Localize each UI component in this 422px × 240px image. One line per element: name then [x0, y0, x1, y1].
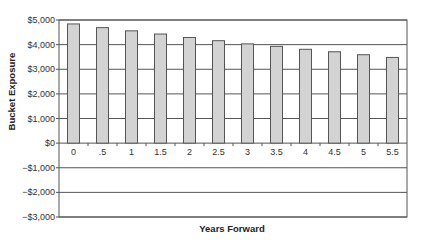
- bar: [300, 49, 312, 143]
- y-tick-label: $0: [45, 138, 55, 148]
- bar: [358, 55, 370, 143]
- bar: [213, 41, 225, 143]
- x-tick-label: 5: [361, 147, 366, 157]
- bars: [68, 24, 399, 143]
- bar: [242, 44, 254, 143]
- bar: [68, 24, 80, 143]
- y-tick-label: −$2,000: [22, 187, 55, 197]
- x-tick-label: 2.5: [212, 147, 225, 157]
- x-tick-label: 1.5: [154, 147, 167, 157]
- x-axis-tick-labels: 0.511.522.533.544.555.5: [71, 147, 399, 157]
- bar: [271, 46, 283, 143]
- bar-chart: $5,000$4,000$3,000$2,000$1,000$0−$1,000−…: [0, 0, 422, 240]
- x-tick-label: 5.5: [386, 147, 399, 157]
- bar: [184, 37, 196, 143]
- y-tick-label: −$3,000: [22, 212, 55, 222]
- y-tick-label: $3,000: [27, 64, 55, 74]
- x-tick-label: 1: [129, 147, 134, 157]
- y-tick-label: $2,000: [27, 89, 55, 99]
- y-tick-label: −$1,000: [22, 163, 55, 173]
- x-tick-label: .5: [99, 147, 107, 157]
- y-tick-label: $5,000: [27, 15, 55, 25]
- x-tick-label: 3.5: [270, 147, 283, 157]
- x-tick-label: 0: [71, 147, 76, 157]
- bar: [329, 52, 341, 143]
- y-tick-label: $1,000: [27, 114, 55, 124]
- y-tick-label: $4,000: [27, 40, 55, 50]
- x-tick-label: 2: [187, 147, 192, 157]
- y-axis-title: Bucket Exposure: [6, 53, 17, 131]
- bar: [126, 31, 138, 143]
- x-tick-label: 4.5: [328, 147, 341, 157]
- y-axis-tick-labels: $5,000$4,000$3,000$2,000$1,000$0−$1,000−…: [22, 15, 55, 222]
- x-axis-title: Years Forward: [199, 223, 265, 234]
- bar: [387, 57, 399, 143]
- bar: [97, 28, 109, 143]
- x-tick-label: 4: [303, 147, 308, 157]
- bar: [155, 34, 167, 143]
- x-tick-label: 3: [245, 147, 250, 157]
